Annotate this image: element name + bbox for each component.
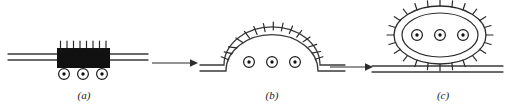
coat-spike — [473, 56, 477, 61]
coat-spike — [473, 9, 477, 14]
coat-spike — [452, 1, 453, 7]
coat-spike — [389, 26, 396, 28]
cargo-dot — [415, 33, 418, 36]
panel-c-cargo-receptors — [412, 30, 469, 41]
cargo-dot — [293, 60, 296, 63]
panel-a-coat-block — [57, 41, 110, 68]
panel-a: (a) — [8, 41, 148, 102]
arrow-a-to-b — [152, 59, 198, 66]
cargo-dot — [461, 33, 464, 36]
cargo-receptor — [412, 30, 423, 41]
cargo-receptor — [78, 69, 89, 80]
cargo-receptor — [244, 57, 255, 68]
coat-spike — [427, 63, 428, 70]
coat-spike — [427, 1, 428, 7]
panel-c: (c) — [372, 0, 503, 102]
coat-spike — [281, 23, 283, 31]
coat-spike — [236, 38, 243, 43]
coat-spike — [403, 56, 407, 61]
panel-c-membrane — [372, 66, 503, 72]
panel-label-c: (c) — [437, 89, 450, 102]
coat-block-rect — [57, 48, 110, 68]
coat-spike — [480, 50, 486, 54]
arrow-head-icon — [190, 59, 198, 66]
coat-spike — [229, 47, 237, 48]
coat-spike — [480, 17, 486, 21]
coat-spike — [313, 52, 321, 53]
coat-spike — [389, 43, 396, 45]
cargo-receptor — [290, 57, 301, 68]
panel-label-a: (a) — [78, 89, 91, 102]
cargo-receptor — [435, 30, 446, 41]
cargo-receptor — [59, 69, 70, 80]
coat-spike — [403, 9, 407, 14]
cargo-dot — [100, 72, 103, 75]
cargo-receptor — [97, 69, 108, 80]
coat-spike — [484, 26, 491, 28]
coat-spike — [463, 4, 465, 11]
panel-label-b: (b) — [266, 89, 279, 102]
panel-b: (b) — [200, 22, 345, 102]
coat-spike — [254, 27, 257, 35]
figure-container: (a) — [0, 0, 511, 110]
panel-b-cargo-receptors — [244, 57, 301, 68]
cargo-dot — [247, 60, 250, 63]
cargo-dot — [270, 60, 273, 63]
coat-spike — [452, 63, 453, 70]
budding-sequence-diagram: (a) — [0, 0, 511, 110]
cargo-receptor — [458, 30, 469, 41]
coat-spike — [224, 52, 232, 54]
panel-a-cargo-receptors — [59, 69, 108, 80]
arrow-head-icon — [365, 63, 373, 70]
cargo-dot — [438, 33, 441, 36]
coat-spike — [415, 4, 417, 11]
coat-spike — [484, 43, 491, 45]
coat-spike — [263, 24, 265, 32]
panel-b-coat-spikes — [221, 22, 323, 60]
coat-spike — [394, 17, 400, 21]
coat-spikes-group — [61, 41, 107, 48]
coat-spike — [394, 50, 400, 54]
cargo-dot — [81, 72, 84, 75]
cargo-receptor — [267, 57, 278, 68]
cargo-dot — [62, 72, 65, 75]
